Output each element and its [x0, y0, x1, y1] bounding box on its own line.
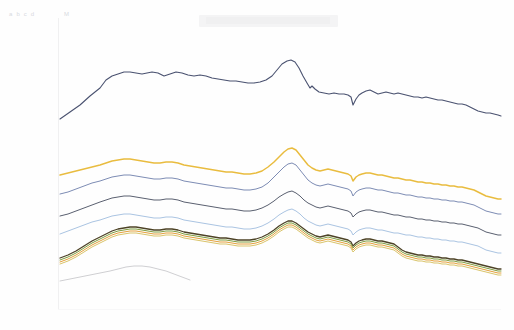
- line-series-6-dark-olive: [60, 221, 501, 269]
- line-series-3-slate-blue: [60, 163, 501, 214]
- line-series-4-dark-grey: [60, 191, 501, 235]
- chart-canvas: a b c d M: [0, 0, 514, 330]
- line-series-9-pale-gold: [60, 227, 501, 275]
- line-series-10-faint-grey-partial: [60, 266, 190, 281]
- line-series-group: [0, 0, 514, 330]
- line-series-2-gold: [60, 148, 501, 199]
- line-series-7-green: [60, 223, 501, 271]
- line-series-1-navy-top: [60, 60, 501, 119]
- line-series-8-orange: [60, 225, 501, 273]
